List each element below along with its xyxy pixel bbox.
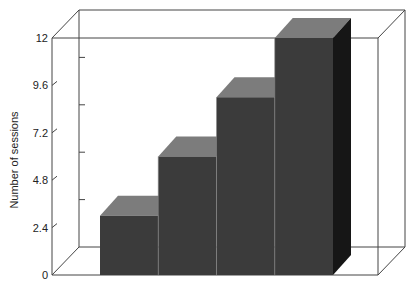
y-tick (52, 129, 57, 133)
bars (100, 18, 351, 275)
y-axis-title: Number of sessions (8, 111, 20, 209)
bar (275, 18, 351, 275)
bar-front-face (275, 38, 333, 275)
y-tick-label: 12 (36, 32, 48, 44)
depth-edge (52, 10, 79, 38)
y-tick-label: 0 (42, 269, 48, 281)
y-tick-label: 7.2 (33, 127, 48, 139)
y-axis-ticks: 02.44.87.29.612 (33, 32, 85, 281)
bar-front-face (100, 216, 158, 275)
bar-chart-3d: 02.44.87.29.612 Number of sessions (0, 0, 416, 285)
y-tick (52, 224, 57, 228)
bar-front-face (217, 97, 275, 275)
y-tick (52, 81, 57, 85)
y-tick-label: 4.8 (33, 174, 48, 186)
depth-edge (378, 247, 405, 275)
depth-edge (378, 10, 405, 38)
bar-side-face (333, 18, 351, 275)
y-tick (52, 176, 57, 180)
y-tick-label: 9.6 (33, 79, 48, 91)
depth-edge (52, 247, 79, 275)
bar-front-face (158, 157, 216, 276)
y-tick-label: 2.4 (33, 222, 48, 234)
